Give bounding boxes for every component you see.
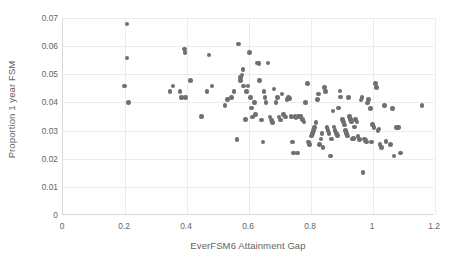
scatter-point [379, 145, 384, 150]
scatter-point [207, 53, 212, 58]
x-axis-tick-label: 1.2 [414, 221, 454, 231]
scatter-point [243, 117, 248, 122]
scatter-point [302, 120, 307, 125]
scatter-point [305, 81, 310, 86]
scatter-point [238, 78, 243, 83]
scatter-point [257, 61, 262, 66]
scatter-point [188, 78, 193, 83]
scatter-point [126, 100, 131, 105]
scatter-point [321, 145, 326, 150]
scatter-point [368, 106, 373, 111]
y-axis-tick-label: 0.05 [18, 69, 58, 79]
x-axis-tick-label: 0 [42, 221, 82, 231]
y-axis-tick-label: 0.03 [18, 126, 58, 136]
scatter-point [323, 89, 328, 94]
scatter-point [232, 89, 237, 94]
plot-area [62, 18, 434, 215]
scatter-point [262, 89, 267, 94]
scatter-point [253, 112, 258, 117]
scatter-point [275, 95, 280, 100]
scatter-chart: Proportion 1 year FSM 00.010.020.030.040… [0, 0, 455, 263]
scatter-point [382, 103, 387, 108]
scatter-point [398, 151, 403, 156]
y-axis-tick-label: 0.06 [18, 41, 58, 51]
scatter-point [420, 103, 425, 108]
scatter-point [388, 142, 393, 147]
scatter-point [210, 84, 215, 89]
scatter-point [346, 95, 351, 100]
scatter-point [364, 140, 369, 145]
scatter-point [290, 140, 295, 145]
x-axis-title: EverFSM6 Attainment Gap [62, 240, 434, 251]
scatter-point [270, 120, 275, 125]
scatter-point [235, 137, 240, 142]
y-axis-tick-label: 0.02 [18, 154, 58, 164]
scatter-point [331, 109, 336, 114]
scatter-point [320, 131, 325, 136]
y-axis-tick-label: 0.07 [18, 13, 58, 23]
scatter-point [274, 100, 279, 105]
scatter-point [287, 96, 292, 101]
scatter-point [205, 89, 210, 94]
scatter-point [261, 140, 266, 145]
scatter-point [328, 154, 333, 159]
x-axis-tick-label: 0.2 [104, 221, 144, 231]
x-axis-tick-label: 1 [352, 221, 392, 231]
scatter-point [377, 127, 382, 132]
scatter-point [259, 118, 264, 123]
scatter-point [338, 89, 343, 94]
scatter-point [374, 85, 379, 90]
scatter-point [178, 89, 183, 94]
scatter-point [360, 95, 365, 100]
scatter-point [266, 61, 271, 66]
scatter-point [125, 56, 130, 61]
scatter-point [241, 67, 246, 72]
x-axis-tick-label: 0.6 [228, 221, 268, 231]
scatter-point [355, 120, 360, 125]
scatter-point [278, 118, 283, 123]
scatter-point [249, 106, 254, 111]
scatter-point [329, 137, 334, 142]
scatter-point [336, 106, 341, 111]
scatter-point [236, 42, 241, 47]
scatter-point [246, 84, 251, 89]
scatter-point [361, 170, 366, 175]
scatter-point [303, 100, 308, 105]
scatter-point [263, 95, 268, 100]
x-axis-tick-label: 0.8 [290, 221, 330, 231]
x-axis-tick-labels: 00.20.40.60.811.2 [62, 221, 434, 235]
x-axis-tick-label: 0.4 [166, 221, 206, 231]
scatter-points [63, 18, 434, 214]
scatter-point [272, 87, 277, 92]
y-axis-tick-label: 0 [18, 210, 58, 220]
scatter-point [252, 100, 257, 105]
scatter-point [307, 142, 312, 147]
scatter-point [316, 92, 321, 97]
y-axis-tick-labels: 00.010.020.030.040.050.060.07 [15, 18, 58, 215]
scatter-point [171, 84, 176, 89]
scatter-point [315, 97, 320, 102]
y-axis-tick-label: 0.04 [18, 97, 58, 107]
scatter-point [335, 133, 340, 138]
scatter-point [183, 50, 188, 55]
scatter-point [312, 125, 317, 130]
scatter-point [295, 151, 300, 156]
scatter-point [338, 95, 343, 100]
scatter-point [240, 73, 245, 78]
scatter-point [396, 125, 401, 130]
gridline-vertical [435, 18, 436, 214]
y-axis-tick-label: 0.01 [18, 182, 58, 192]
scatter-point [342, 123, 347, 128]
scatter-point [264, 100, 269, 105]
scatter-point [257, 78, 262, 83]
scatter-point [122, 84, 127, 89]
scatter-point [369, 140, 374, 145]
scatter-point [168, 89, 173, 94]
scatter-point [125, 22, 130, 27]
scatter-point [229, 95, 234, 100]
scatter-point [366, 97, 371, 102]
scatter-point [357, 137, 362, 142]
scatter-point [314, 120, 319, 125]
scatter-point [223, 103, 228, 108]
scatter-point [352, 125, 357, 130]
